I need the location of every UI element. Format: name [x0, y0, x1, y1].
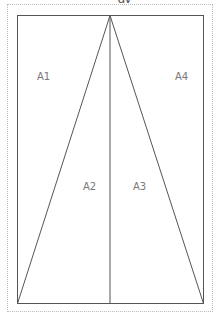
region-label-a2: A2	[83, 181, 96, 192]
region-label-a4: A4	[175, 71, 188, 82]
region-label-a1: A1	[37, 71, 50, 82]
triangle-left-edge	[18, 16, 111, 304]
triangle-right-edge	[110, 16, 204, 304]
triangle-partition-diagram: A1 A4 A2 A3	[0, 0, 219, 316]
region-label-a3: A3	[133, 181, 146, 192]
